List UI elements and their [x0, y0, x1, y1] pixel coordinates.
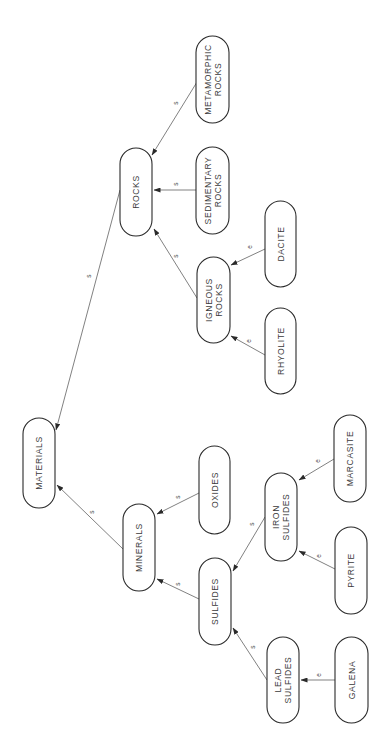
edge-label: e — [314, 459, 321, 463]
node-label: MINERALS — [134, 523, 144, 572]
edge-metamorphic-rocks-to-rocks: s — [152, 82, 197, 155]
node-label: SULFIDES — [281, 494, 291, 541]
edge-galena-to-lead-sulfides: e — [301, 673, 335, 680]
edge-lead-sulfides-to-sulfides: s — [233, 628, 267, 680]
arrow-icon — [56, 190, 120, 430]
node-rocks: ROCKS — [120, 148, 152, 236]
edge-marcasite-to-iron-sulfides: e — [299, 459, 334, 480]
edge-label: s — [174, 582, 181, 586]
edge-oxides-to-minerals: s — [157, 493, 199, 514]
edge-label: s — [172, 182, 179, 186]
node-label: SULFIDES — [283, 657, 293, 704]
node-sedimentary-rocks: SEDIMENTARYROCKS — [196, 147, 229, 234]
arrow-icon — [231, 249, 265, 265]
edge-label: s — [172, 101, 179, 105]
node-label: OXIDES — [210, 472, 220, 508]
node-label: ROCKS — [131, 175, 141, 209]
node-label: IRON — [271, 505, 281, 529]
edge-minerals-to-materials: s — [57, 485, 123, 549]
node-galena: GALENA — [335, 637, 368, 723]
node-pyrite: PYRITE — [335, 527, 367, 614]
arrow-icon — [154, 229, 197, 298]
node-label: ROCKS — [214, 283, 224, 317]
node-iron-sulfides: IRONSULFIDES — [265, 473, 297, 561]
edge-label: e — [245, 339, 252, 343]
node-label: MARCASITE — [345, 431, 355, 487]
node-label: METAMORPHIC — [203, 44, 213, 114]
node-sulfides: SULFIDES — [199, 558, 231, 645]
node-label: ROCKS — [213, 63, 223, 97]
edge-label: e — [246, 245, 253, 249]
node-label: ROCKS — [213, 174, 223, 208]
nodes-layer: MATERIALSROCKSMETAMORPHICROCKSSEDIMENTAR… — [23, 36, 368, 723]
edge-label: s — [85, 274, 92, 278]
node-minerals: MINERALS — [123, 504, 155, 591]
edge-igneous-rocks-to-rocks: s — [154, 229, 197, 298]
node-marcasite: MARCASITE — [334, 415, 366, 502]
node-label: SEDIMENTARY — [203, 157, 213, 225]
edge-rhyolite-to-igneous-rocks: e — [231, 336, 265, 355]
node-oxides: OXIDES — [199, 446, 230, 534]
arrow-icon — [152, 82, 197, 155]
edge-dacite-to-igneous-rocks: e — [231, 245, 265, 265]
arrow-icon — [231, 336, 265, 355]
edge-sedimentary-rocks-to-rocks: s — [154, 182, 196, 190]
arrow-icon — [299, 551, 335, 569]
edge-label: s — [174, 495, 181, 499]
node-igneous-rocks: IGNEOUSROCKS — [197, 257, 230, 343]
edge-pyrite-to-iron-sulfides: e — [299, 551, 335, 569]
node-lead-sulfides: LEADSULFIDES — [267, 637, 299, 723]
node-label: MATERIALS — [34, 436, 44, 489]
node-label: RHYOLITE — [276, 327, 286, 375]
edge-label: s — [249, 645, 256, 649]
node-label: GALENA — [347, 661, 357, 699]
node-rhyolite: RHYOLITE — [265, 308, 296, 394]
edge-label: e — [315, 673, 322, 677]
arrow-icon — [57, 485, 123, 549]
edge-label: s — [88, 510, 95, 514]
node-materials: MATERIALS — [23, 418, 55, 508]
edge-iron-sulfides-to-sulfides: s — [233, 517, 265, 571]
node-label: PYRITE — [346, 553, 356, 588]
node-label: DACITE — [276, 226, 286, 261]
edge-label: s — [172, 254, 179, 258]
arrow-icon — [157, 579, 199, 599]
node-label: LEAD — [273, 668, 283, 693]
taxonomy-diagram: sssseesssseese MATERIALSROCKSMETAMORPHIC… — [0, 0, 387, 749]
edge-rocks-to-materials: s — [56, 190, 120, 430]
node-metamorphic-rocks: METAMORPHICROCKS — [196, 36, 229, 123]
node-label: SULFIDES — [210, 578, 220, 625]
edge-label: e — [315, 554, 322, 558]
node-dacite: DACITE — [265, 201, 296, 287]
edge-label: s — [248, 522, 255, 526]
node-label: IGNEOUS — [204, 278, 214, 322]
edge-sulfides-to-minerals: s — [157, 579, 199, 599]
arrow-icon — [233, 628, 267, 680]
